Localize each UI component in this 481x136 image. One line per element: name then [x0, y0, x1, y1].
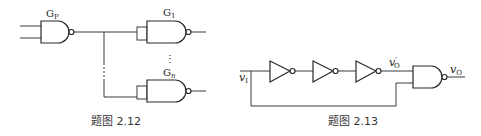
inversion-bubble-icon: [69, 30, 74, 35]
diagram-canvas: GP G1 ⋮ Gn 题图 2.12 vI: [0, 0, 481, 136]
gate-label-gp: GP: [46, 8, 59, 21]
nand-body-icon: [41, 21, 69, 43]
inversion-bubble-icon: [186, 89, 191, 94]
figure-caption-2-12: 题图 2.12: [91, 115, 141, 128]
inversion-bubble-icon: [290, 69, 295, 74]
not-gate-icon: [313, 61, 333, 82]
figure-2-12: GP G1 ⋮ Gn 题图 2.12: [20, 7, 206, 128]
intermediate-label-vo-prime: v′O: [389, 55, 400, 70]
inverter-3: [356, 61, 381, 82]
tied-inputs-icon: [137, 27, 147, 40]
gate-label-gn: Gn: [163, 67, 176, 80]
nand-body-icon: [147, 21, 186, 43]
nand-gate-output: [413, 66, 447, 88]
nand-gate-gn: Gn: [137, 67, 206, 102]
input-label-vi: vI: [239, 71, 248, 85]
nand-body-icon: [147, 80, 186, 102]
inverter-2: [313, 61, 338, 82]
gate-label-g1: G1: [163, 7, 175, 20]
nand-gate-g1: G1: [137, 7, 206, 43]
tied-inputs-icon: [137, 86, 147, 99]
vertical-ellipsis: ⋮: [165, 53, 175, 64]
not-gate-icon: [270, 61, 290, 82]
inversion-bubble-icon: [333, 69, 338, 74]
inversion-bubble-icon: [186, 30, 191, 35]
inversion-bubble-icon: [376, 69, 381, 74]
nand-body-icon: [413, 66, 442, 88]
figure-caption-2-13: 题图 2.13: [328, 115, 378, 128]
output-label-vo: vO: [450, 63, 462, 77]
not-gate-icon: [356, 61, 376, 82]
inverter-1: [270, 61, 295, 82]
nand-gate-gp: GP: [20, 8, 74, 43]
figure-2-13: vI v′O vO 题图 2.13: [239, 55, 465, 128]
inversion-bubble-icon: [442, 75, 447, 80]
